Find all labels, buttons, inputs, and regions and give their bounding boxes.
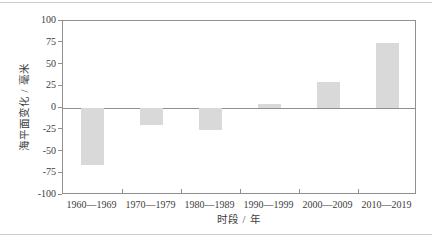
y-tick-label: 75 <box>20 36 56 48</box>
bar-2010—2019 <box>376 43 399 108</box>
y-tick <box>58 63 62 64</box>
x-tick <box>122 189 123 193</box>
y-tick <box>58 150 62 151</box>
bar-1980—1989 <box>199 108 222 130</box>
bar-1960—1969 <box>81 108 104 165</box>
x-tick <box>240 189 241 193</box>
y-tick-label: -75 <box>20 166 56 178</box>
bar-1990—1999 <box>258 104 281 108</box>
y-tick <box>58 194 62 195</box>
y-tick-label: 50 <box>20 58 56 70</box>
x-tick <box>358 189 359 193</box>
bar-2000—2009 <box>317 82 340 108</box>
y-tick <box>58 107 62 108</box>
plot-area <box>62 20 416 194</box>
sea-level-change-figure: 海平面变化 / 毫米 1007550250-25-50-75-100 1960—… <box>0 0 432 239</box>
top-rule-line <box>0 2 432 3</box>
y-tick <box>58 172 62 173</box>
x-axis-title: 时段 / 年 <box>179 213 299 226</box>
y-tick-label: 100 <box>20 14 56 26</box>
y-tick <box>58 41 62 42</box>
y-tick <box>58 128 62 129</box>
y-tick-label: -50 <box>20 145 56 157</box>
y-tick <box>58 20 62 21</box>
zero-baseline <box>63 108 415 109</box>
x-tick <box>299 189 300 193</box>
bottom-rule-line <box>0 234 432 235</box>
x-category-label: 2010—2019 <box>347 199 427 211</box>
y-tick-label: 0 <box>20 101 56 113</box>
y-tick-label: 25 <box>20 79 56 91</box>
bar-1970—1979 <box>140 108 163 125</box>
y-tick-label: -25 <box>20 123 56 135</box>
y-tick <box>58 85 62 86</box>
x-tick <box>181 189 182 193</box>
